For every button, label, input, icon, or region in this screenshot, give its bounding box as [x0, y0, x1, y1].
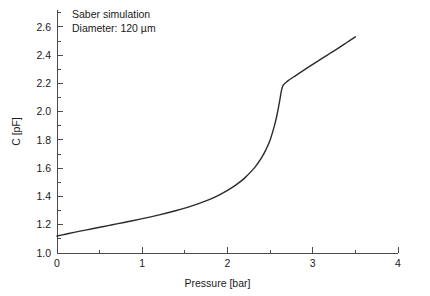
- y-axis: 1.01.21.41.61.82.02.22.42.6 C [pF]: [10, 10, 63, 259]
- y-tick-label: 1.6: [36, 162, 51, 174]
- data-curve-saber-simulation: [57, 37, 355, 236]
- y-tick-label: 2.0: [36, 105, 51, 117]
- y-tick-label: 1.8: [36, 134, 51, 146]
- y-axis-title: C [pF]: [10, 117, 22, 146]
- x-axis-tick-labels: 01234: [54, 257, 401, 269]
- x-axis: 01234 Pressure [bar]: [54, 247, 401, 289]
- y-axis-tick-labels: 1.01.21.41.61.82.02.22.42.6: [36, 21, 51, 259]
- plot-area: [57, 37, 355, 236]
- y-tick-label: 2.6: [36, 21, 51, 33]
- x-tick-label: 0: [54, 257, 60, 269]
- annotation-line: Diameter: 120 µm: [72, 22, 156, 34]
- y-tick-label: 2.2: [36, 77, 51, 89]
- y-axis-tick-group: [57, 13, 63, 253]
- y-tick-label: 2.4: [36, 49, 51, 61]
- x-tick-label: 1: [139, 257, 145, 269]
- y-tick-label: 1.0: [36, 247, 51, 259]
- x-tick-label: 2: [225, 257, 231, 269]
- chart-figure: 1.01.21.41.61.82.02.22.42.6 C [pF] 01234…: [0, 0, 430, 296]
- annotation-line: Saber simulation: [72, 8, 150, 20]
- capacitance-vs-pressure-chart: 1.01.21.41.61.82.02.22.42.6 C [pF] 01234…: [0, 0, 430, 296]
- x-tick-label: 3: [310, 257, 316, 269]
- x-axis-title: Pressure [bar]: [185, 277, 251, 289]
- x-tick-label: 4: [395, 257, 401, 269]
- x-axis-tick-group: [57, 247, 398, 253]
- y-tick-label: 1.2: [36, 218, 51, 230]
- annotation-text-block: Saber simulationDiameter: 120 µm: [72, 8, 156, 34]
- y-tick-label: 1.4: [36, 190, 51, 202]
